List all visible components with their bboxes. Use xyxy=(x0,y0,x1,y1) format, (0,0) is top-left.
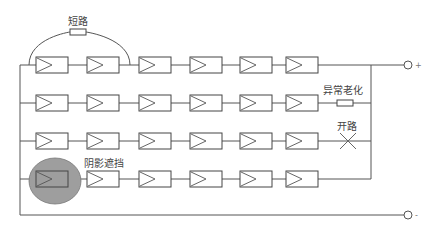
label-short-circuit: 短路 xyxy=(68,15,88,27)
label-shading: 阴影遮挡 xyxy=(84,157,124,169)
negative-terminal xyxy=(404,211,412,219)
positive-sign: + xyxy=(415,61,422,70)
modules xyxy=(36,57,318,187)
pv-array-diagram: + - 短路 异常老化 开路 阴影遮挡 xyxy=(0,0,433,234)
label-open-circuit: 开路 xyxy=(337,120,357,132)
short-circuit-resistor xyxy=(70,29,86,35)
positive-terminal xyxy=(404,61,412,69)
aging-resistor xyxy=(337,100,353,106)
negative-sign: - xyxy=(415,211,418,220)
module-triangles xyxy=(37,58,302,186)
label-abnormal-aging: 异常老化 xyxy=(323,84,363,96)
